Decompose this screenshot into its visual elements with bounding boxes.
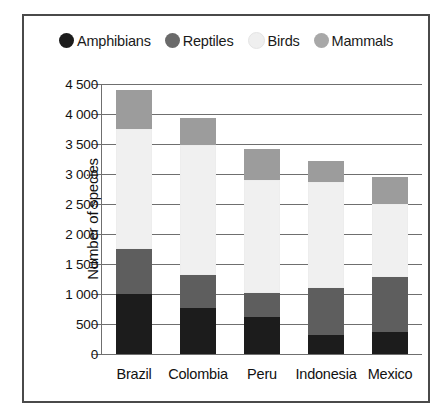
bar-segment-reptiles [180, 275, 216, 308]
bar-segment-mammals [308, 161, 344, 183]
bar-indonesia[interactable] [308, 161, 344, 354]
legend-swatch-mammals-icon [314, 33, 329, 48]
y-tick-label: 500 [36, 317, 98, 332]
bar-segment-amphibians [372, 332, 408, 354]
bar-segment-mammals [180, 118, 216, 145]
bar-segment-reptiles [244, 293, 280, 317]
bar-segment-reptiles [372, 277, 408, 332]
bar-segment-reptiles [308, 288, 344, 335]
plot-area: Number of species 05001 0001 5002 0002 5… [102, 84, 422, 354]
bar-mexico[interactable] [372, 177, 408, 354]
x-tick-label-indonesia: Indonesia [295, 366, 356, 382]
y-tick-label: 3 000 [36, 167, 98, 182]
x-axis-line [101, 354, 422, 355]
y-tick-label: 4 000 [36, 107, 98, 122]
bar-segment-amphibians [244, 317, 280, 354]
bar-segment-birds [372, 204, 408, 277]
y-tick-label: 1 500 [36, 257, 98, 272]
x-tick-label-peru: Peru [247, 366, 277, 382]
legend-label: Amphibians [77, 33, 151, 49]
bar-colombia[interactable] [180, 118, 216, 354]
y-tick-label: 4 500 [36, 77, 98, 92]
legend-item-amphibians[interactable]: Amphibians [59, 33, 151, 49]
chart-figure: AmphibiansReptilesBirdsMammals Number of… [22, 14, 430, 403]
bar-segment-birds [244, 180, 280, 293]
x-tick-label-brazil: Brazil [116, 366, 151, 382]
bar-segment-birds [180, 145, 216, 275]
x-tick-label-mexico: Mexico [368, 366, 413, 382]
legend-item-mammals[interactable]: Mammals [314, 33, 393, 49]
legend-label: Birds [268, 33, 300, 49]
bar-segment-reptiles [116, 249, 152, 294]
legend-item-birds[interactable]: Birds [248, 32, 300, 49]
gridline [102, 84, 422, 85]
legend-item-reptiles[interactable]: Reptiles [165, 33, 234, 49]
y-tick-label: 3 500 [36, 137, 98, 152]
bar-brazil[interactable] [116, 90, 152, 354]
x-tick-label-colombia: Colombia [168, 366, 228, 382]
bar-segment-amphibians [116, 294, 152, 354]
y-tick-label: 1 000 [36, 287, 98, 302]
bar-segment-amphibians [180, 308, 216, 354]
legend-label: Reptiles [183, 33, 234, 49]
y-tick-label: 2 000 [36, 227, 98, 242]
chart-legend: AmphibiansReptilesBirdsMammals [24, 32, 428, 49]
bar-segment-mammals [116, 90, 152, 129]
bar-segment-mammals [244, 149, 280, 180]
legend-label: Mammals [332, 33, 393, 49]
bar-peru[interactable] [244, 149, 280, 354]
bar-segment-birds [308, 182, 344, 288]
legend-swatch-amphibians-icon [59, 33, 74, 48]
y-tick-label: 2 500 [36, 197, 98, 212]
legend-swatch-birds-icon [248, 32, 265, 49]
y-tick-label: 0 [36, 347, 98, 362]
legend-swatch-reptiles-icon [165, 33, 180, 48]
y-axis-line [101, 84, 102, 355]
bar-segment-mammals [372, 177, 408, 204]
bar-segment-amphibians [308, 335, 344, 354]
bar-segment-birds [116, 129, 152, 249]
